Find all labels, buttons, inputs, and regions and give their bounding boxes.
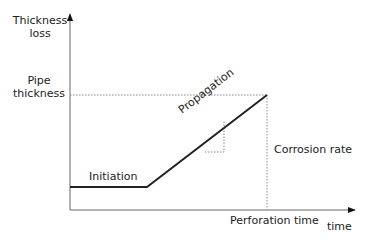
initiation-label: Initiation [89, 170, 137, 183]
pipe-thickness-label: Pipe thickness [10, 74, 68, 100]
x-axis-label: time [327, 220, 352, 233]
perforation-time-label: Perforation time [230, 214, 319, 227]
corrosion-rate-label: Corrosion rate [274, 143, 352, 156]
y-axis-label: Thickness loss [12, 14, 68, 40]
